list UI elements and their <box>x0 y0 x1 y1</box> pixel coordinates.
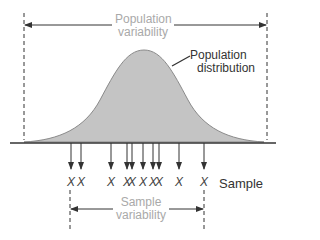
sample-label: Sample <box>219 177 263 190</box>
distribution-pointer <box>172 56 190 66</box>
sample-mark: X <box>200 175 208 189</box>
sample-mark: X <box>155 175 163 189</box>
sample-arrows <box>71 143 204 169</box>
population-variability-line2: variability <box>115 26 171 39</box>
population-variability-label: Population variability <box>112 13 174 39</box>
sample-mark: X <box>67 175 75 189</box>
sample-mark: X <box>139 175 147 189</box>
sample-variability-label: Sample variability <box>113 196 169 222</box>
population-distribution-line2: distribution <box>190 62 260 75</box>
sample-variability-line2: variability <box>116 209 166 222</box>
sample-mark: X <box>77 175 85 189</box>
population-distribution-label: Population distribution <box>190 49 260 75</box>
sample-mark: X <box>175 175 183 189</box>
sample-mark: X <box>107 175 115 189</box>
sample-mark: X <box>128 175 136 189</box>
